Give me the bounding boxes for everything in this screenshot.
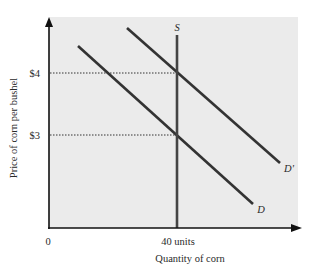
plot-area (49, 17, 298, 228)
label-d: D (256, 204, 265, 215)
y-tick-3: $3 (30, 130, 41, 141)
supply-demand-chart: $4 $3 0 40 units S D D' Quantity of corn… (0, 0, 315, 273)
x-tick-40: 40 units (161, 236, 195, 247)
label-s: S (174, 22, 180, 33)
label-d-prime: D' (283, 163, 295, 174)
y-axis-title: Price of corn per bushel (8, 78, 19, 178)
y-tick-4: $4 (30, 68, 41, 79)
x-tick-0: 0 (45, 236, 50, 247)
x-axis-title: Quantity of corn (155, 253, 225, 264)
